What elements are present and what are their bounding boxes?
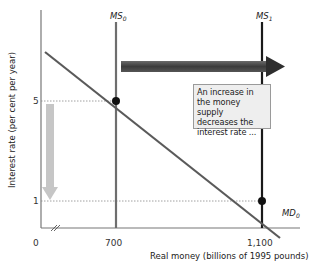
equilibrium-point-new [258, 197, 266, 205]
md0-label: MD0 [282, 208, 300, 219]
callout-line: the money supply [197, 97, 267, 117]
y-axis-title: Interest rate (per cent per year) [7, 52, 17, 188]
callout-line: decreases the [197, 117, 267, 127]
equilibrium-point-initial [112, 97, 120, 105]
x-axis-title: Real money (billions of 1995 pounds) [150, 251, 308, 261]
callout-line: An increase in [197, 87, 267, 97]
x-tick-700: 700 [105, 238, 122, 248]
y-tick-5: 5 [33, 96, 39, 106]
x-tick-0: 0 [33, 238, 39, 248]
ms1-label: MS1 [256, 11, 273, 22]
md0-curve [45, 52, 280, 238]
ms0-label: MS0 [110, 11, 127, 22]
money-supply-increase-arrow-icon [121, 56, 285, 77]
x-tick-1100: 1,100 [247, 238, 273, 248]
callout-box: An increase in the money supply decrease… [193, 84, 271, 129]
y-tick-1: 1 [33, 196, 39, 206]
callout-line: interest rate ... [197, 127, 267, 137]
interest-rate-down-arrow-icon [42, 104, 58, 200]
